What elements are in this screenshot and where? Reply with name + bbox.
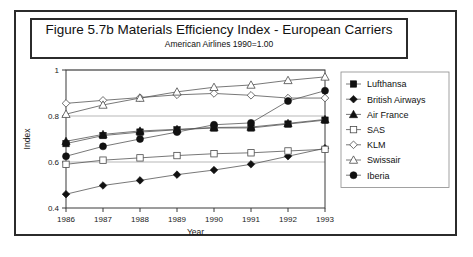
legend-label: British Airways xyxy=(367,95,426,105)
figure-title-box: Figure 5.7b Materials Efficiency Index -… xyxy=(30,18,408,59)
x-tick-label: 1990 xyxy=(205,215,223,224)
data-point-marker xyxy=(63,161,69,167)
data-point-marker xyxy=(62,100,70,108)
legend-label: Air France xyxy=(367,110,409,120)
x-axis-label: Year xyxy=(187,227,204,236)
data-point-marker xyxy=(137,155,143,161)
chart-container: 0.40.60.81198619871988198919901991199219… xyxy=(14,62,457,236)
screenshot-root: Figure 5.7b Materials Efficiency Index -… xyxy=(0,0,473,257)
data-point-marker xyxy=(173,171,181,179)
data-point-marker xyxy=(137,136,144,143)
x-tick-label: 1988 xyxy=(131,215,149,224)
data-point-marker xyxy=(247,92,255,100)
legend-label: KLM xyxy=(367,140,386,150)
data-point-marker xyxy=(248,119,255,126)
data-point-marker xyxy=(174,129,181,136)
data-point-marker xyxy=(99,182,107,190)
data-point-marker xyxy=(285,98,292,105)
data-point-marker xyxy=(247,161,255,169)
x-tick-label: 1991 xyxy=(242,215,260,224)
y-tick-label: 0.6 xyxy=(48,158,60,167)
legend-marker-icon xyxy=(350,126,356,132)
y-tick-label: 0.8 xyxy=(48,112,60,121)
data-point-marker xyxy=(63,153,70,160)
data-point-marker xyxy=(211,151,217,157)
data-point-marker xyxy=(248,150,254,156)
legend-label: SAS xyxy=(367,125,385,135)
legend-label: Iberia xyxy=(367,171,390,181)
x-tick-label: 1989 xyxy=(168,215,186,224)
data-point-marker xyxy=(211,121,218,128)
data-point-marker xyxy=(285,148,291,154)
data-point-marker xyxy=(322,87,329,94)
legend-label: Swissair xyxy=(367,155,401,165)
legend-label: Lufthansa xyxy=(367,79,407,89)
figure-subtitle: American Airlines 1990=1.00 xyxy=(165,39,273,49)
data-point-marker xyxy=(136,177,144,185)
data-point-marker xyxy=(100,143,107,150)
data-point-marker xyxy=(321,94,329,102)
x-tick-label: 1987 xyxy=(94,215,112,224)
legend-marker-icon xyxy=(350,172,357,179)
data-point-marker xyxy=(321,73,329,80)
y-axis-label: Index xyxy=(22,128,32,150)
data-point-marker xyxy=(210,166,218,174)
series-air-france xyxy=(62,115,329,144)
x-tick-label: 1993 xyxy=(316,215,334,224)
y-tick-label: 1 xyxy=(55,66,60,75)
legend-marker-icon xyxy=(350,81,356,87)
data-point-marker xyxy=(174,152,180,158)
data-point-marker xyxy=(322,146,328,152)
data-point-marker xyxy=(100,157,106,163)
x-tick-label: 1986 xyxy=(57,215,75,224)
y-tick-label: 0.4 xyxy=(48,204,60,213)
x-tick-label: 1992 xyxy=(279,215,297,224)
page-title: Figure 5.7b Materials Efficiency Index -… xyxy=(45,22,392,37)
data-point-marker xyxy=(62,190,70,198)
materials-efficiency-line-chart: 0.40.60.81198619871988198919901991199219… xyxy=(14,62,457,236)
